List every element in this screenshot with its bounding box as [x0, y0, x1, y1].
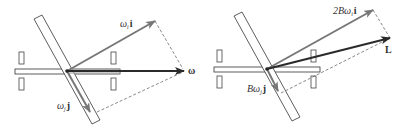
label-omega-j-j: ωjj	[57, 100, 70, 112]
label-omega-i-i: ωii	[120, 18, 133, 30]
origin-point	[65, 69, 69, 73]
label-b-omega-j-j: Bωjj	[247, 83, 266, 95]
diagram-canvas: ωii ωjj ω 2Bωii Bωjj L	[0, 0, 404, 131]
bearing-left-top	[19, 52, 24, 64]
label-L: L	[385, 44, 392, 55]
vector-2b-omega-i	[267, 10, 373, 69]
dashed-line	[155, 21, 183, 69]
label-omega: ω	[188, 65, 195, 76]
bearing-right-top	[111, 52, 116, 64]
bearing-left-bottom	[19, 78, 24, 90]
dashed-line	[281, 38, 390, 93]
left-panel: ωii ωjj ω	[15, 15, 195, 124]
bearing-right-bottom	[311, 76, 316, 88]
vector-L	[267, 38, 390, 69]
vector-omega-j	[67, 71, 90, 112]
dashed-line	[97, 72, 183, 112]
tilted-plate	[234, 12, 300, 121]
label-2b-omega-i-i: 2Bωii	[333, 5, 357, 17]
dashed-line	[373, 10, 390, 38]
right-panel: 2Bωii Bωjj L	[214, 5, 392, 121]
bearing-right-bottom	[111, 78, 116, 90]
origin-point	[265, 67, 269, 71]
bearing-left-top	[217, 50, 222, 62]
bearing-left-bottom	[217, 76, 222, 88]
